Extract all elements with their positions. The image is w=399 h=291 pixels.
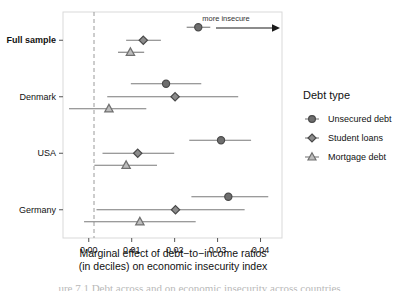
marker-circle — [225, 193, 232, 200]
marker-circle — [217, 137, 224, 144]
marker-circle — [162, 80, 169, 87]
legend-item-label: Student loans — [328, 133, 384, 143]
legend-title: Debt type — [303, 89, 350, 101]
x-axis-title-line1: Marginal effect of debt−to−income ratios — [79, 247, 266, 259]
x-axis-title-line2: (in deciles) on economic insecurity inde… — [79, 260, 268, 272]
legend-item-circle[interactable]: Unsecured debt — [305, 114, 392, 124]
legend-marker-circle — [309, 116, 316, 123]
annotation-label: more insecure — [202, 14, 250, 23]
legend-marker-diamond — [308, 134, 316, 142]
legend-item-label: Unsecured debt — [328, 114, 392, 124]
legend-item-label: Mortgage debt — [328, 152, 387, 162]
legend-marker-triangle — [308, 153, 316, 160]
y-axis-label-denmark: Denmark — [19, 92, 56, 102]
y-axis-label-full-sample: Full sample — [6, 35, 56, 45]
legend: Debt type Unsecured debtStudent loansMor… — [303, 89, 392, 162]
y-axis-label-germany: Germany — [19, 205, 57, 215]
plot-panel — [63, 12, 282, 238]
legend-items: Unsecured debtStudent loansMortgage debt — [305, 114, 392, 162]
legend-item-triangle[interactable]: Mortgage debt — [305, 152, 387, 162]
y-axis-labels: Full sampleDenmarkUSAGermany — [6, 35, 63, 215]
y-axis-label-usa: USA — [37, 148, 56, 158]
page-caption-cutoff: ure 7.1 Debt across and on economic inse… — [0, 282, 399, 291]
marker-circle — [195, 24, 202, 31]
legend-item-diamond[interactable]: Student loans — [305, 133, 384, 143]
